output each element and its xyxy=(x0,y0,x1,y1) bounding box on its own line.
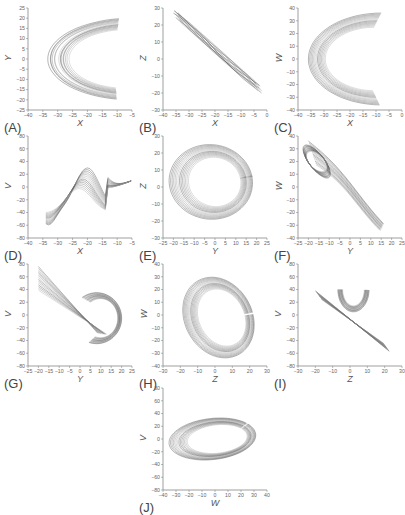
y-tick-label: 0 xyxy=(22,184,25,190)
y-axis-label: Y xyxy=(3,55,13,61)
phase-plot-d: −40−35−30−25−20−15−10−5−80−60−40−2002040… xyxy=(0,128,135,256)
x-axis-label: X xyxy=(340,118,360,128)
y-tick-label: 30 xyxy=(154,274,160,280)
y-tick-label: −30 xyxy=(151,107,160,113)
plot-panel-g: −25−20−15−10−50510152025−80−60−40−200204… xyxy=(0,256,135,384)
trajectory xyxy=(46,168,131,225)
y-tick-label: −20 xyxy=(16,97,25,103)
y-tick-label: −60 xyxy=(16,222,25,228)
phase-plot-c: −40−35−30−25−20−15−10−50−40−30−20−100102… xyxy=(270,0,405,128)
plot-panel-d: −40−35−30−25−20−15−10−5−80−60−40−2002040… xyxy=(0,128,135,256)
y-tick-label: −20 xyxy=(151,337,160,343)
x-tick-label: −30 xyxy=(53,240,62,246)
x-tick-label: −30 xyxy=(159,368,168,374)
x-tick-label: −40 xyxy=(159,492,168,498)
y-tick-label: 40 xyxy=(19,286,25,292)
x-tick-label: 30 xyxy=(399,368,405,374)
y-tick-label: 40 xyxy=(289,5,295,11)
y-tick-label: 10 xyxy=(289,171,295,177)
y-tick-label: −20 xyxy=(286,325,295,331)
phase-plot-e: −25−20−15−10−50510152025−30−20−100102030 xyxy=(135,128,270,256)
y-tick-label: −40 xyxy=(151,363,160,369)
y-tick-label: 20 xyxy=(289,299,295,305)
y-tick-label: −10 xyxy=(16,76,25,82)
x-tick-label: −30 xyxy=(185,112,194,118)
y-tick-label: 60 xyxy=(154,398,160,404)
phase-plot-f: −25−20−15−10−50510152025−40−30−20−100102… xyxy=(270,128,405,256)
y-tick-label: −80 xyxy=(16,235,25,241)
y-tick-label: 40 xyxy=(154,261,160,267)
x-tick-label: 20 xyxy=(247,368,253,374)
plot-panel-j: −40−30−20−10010203040−80−60−40−200204060… xyxy=(135,380,270,508)
x-tick-label: −10 xyxy=(190,240,199,246)
panel-label: (G) xyxy=(4,376,23,391)
phase-plot-g: −25−20−15−10−50510152025−80−60−40−200204… xyxy=(0,256,135,384)
y-tick-label: −15 xyxy=(16,86,25,92)
x-tick-label: −35 xyxy=(38,112,47,118)
y-axis-label: Z xyxy=(138,183,148,189)
x-tick-label: 0 xyxy=(401,112,404,118)
y-tick-label: −30 xyxy=(286,222,295,228)
y-tick-label: −20 xyxy=(16,197,25,203)
panel-label: (J) xyxy=(139,500,154,515)
trajectory xyxy=(308,13,381,105)
x-tick-label: −20 xyxy=(176,368,185,374)
x-tick-label: 20 xyxy=(389,240,395,246)
y-tick-label: 10 xyxy=(154,167,160,173)
x-axis-label: Y xyxy=(205,246,225,256)
y-tick-label: −60 xyxy=(16,350,25,356)
y-tick-label: 0 xyxy=(292,312,295,318)
x-tick-label: −20 xyxy=(34,368,43,374)
y-tick-label: 10 xyxy=(154,299,160,305)
y-tick-label: −40 xyxy=(151,461,160,467)
y-tick-label: 60 xyxy=(19,146,25,152)
y-tick-label: −20 xyxy=(286,81,295,87)
x-tick-label: 20 xyxy=(382,368,388,374)
y-tick-label: 0 xyxy=(22,312,25,318)
x-tick-label: −25 xyxy=(24,368,33,374)
y-tick-label: −40 xyxy=(16,337,25,343)
y-tick-label: 5 xyxy=(22,46,25,52)
x-tick-label: −20 xyxy=(185,492,194,498)
y-axis-label: Z xyxy=(138,55,148,61)
x-axis-label: X xyxy=(205,118,225,128)
y-tick-label: 20 xyxy=(289,158,295,164)
plot-panel-b: −40−35−30−25−20−15−10−50−30−20−100102030… xyxy=(135,0,270,128)
y-tick-label: 40 xyxy=(289,133,295,139)
x-tick-label: −30 xyxy=(294,368,303,374)
y-tick-label: 20 xyxy=(154,150,160,156)
phase-plot-i: −30−20−100102030−80−60−40−20020406080 xyxy=(270,256,405,384)
y-axis-label: V xyxy=(138,435,148,441)
y-tick-label: 30 xyxy=(154,133,160,139)
y-tick-label: 30 xyxy=(289,146,295,152)
y-tick-label: 0 xyxy=(157,312,160,318)
y-tick-label: 0 xyxy=(157,184,160,190)
x-tick-label: −35 xyxy=(38,240,47,246)
x-tick-label: −10 xyxy=(325,240,334,246)
y-tick-label: 0 xyxy=(157,436,160,442)
x-tick-label: 25 xyxy=(399,240,405,246)
x-tick-label: 0 xyxy=(266,112,269,118)
x-tick-label: −20 xyxy=(169,240,178,246)
x-tick-label: −15 xyxy=(98,240,107,246)
x-tick-label: −35 xyxy=(307,112,316,118)
plot-panel-a: −40−35−30−25−20−15−10−5−25−20−15−10−5051… xyxy=(0,0,135,128)
x-tick-label: −40 xyxy=(159,112,168,118)
trajectory xyxy=(169,418,256,460)
y-tick-label: 0 xyxy=(157,56,160,62)
y-tick-label: −30 xyxy=(151,350,160,356)
x-tick-label: 20 xyxy=(254,240,260,246)
x-tick-label: 30 xyxy=(251,492,257,498)
y-tick-label: −40 xyxy=(286,107,295,113)
plot-panel-i: −30−20−100102030−80−60−40−20020406080ZV(… xyxy=(270,256,405,384)
y-tick-label: −20 xyxy=(151,90,160,96)
trajectory xyxy=(48,19,119,99)
y-tick-label: 20 xyxy=(19,15,25,21)
y-tick-label: −80 xyxy=(286,363,295,369)
x-tick-label: −10 xyxy=(372,112,381,118)
x-tick-label: −30 xyxy=(320,112,329,118)
x-axis-label: W xyxy=(205,498,225,508)
x-axis-label: X xyxy=(70,246,90,256)
y-tick-label: 80 xyxy=(19,261,25,267)
y-tick-label: 20 xyxy=(154,286,160,292)
